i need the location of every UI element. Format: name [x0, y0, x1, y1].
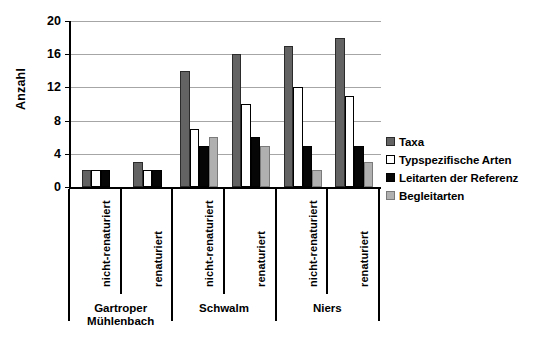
category-separator	[120, 189, 122, 294]
legend-label: Typspezifische Arten	[399, 154, 511, 166]
y-axis-tick	[65, 21, 71, 22]
legend-swatch-icon	[386, 191, 395, 200]
bar	[354, 146, 364, 188]
category-label: nicht-renaturiert	[307, 200, 319, 287]
group-axis-band: GartroperMühlenbachSchwalmNiers	[69, 294, 379, 344]
category-separator	[68, 189, 70, 294]
bar	[364, 162, 374, 187]
legend-swatch-icon	[386, 155, 395, 164]
y-axis-tick	[65, 187, 71, 188]
group-label: Schwalm	[172, 302, 275, 315]
bar	[209, 137, 219, 187]
y-axis-title: Anzahl	[14, 49, 28, 129]
chart-legend: TaxaTypspezifische ArtenLeitarten der Re…	[386, 133, 534, 205]
category-label: renaturiert	[152, 231, 164, 287]
bar	[312, 170, 322, 187]
category-label: nicht-renaturiert	[100, 200, 112, 287]
y-tick-label: 12	[31, 81, 61, 93]
category-label: renaturiert	[255, 231, 267, 287]
bar	[152, 170, 162, 187]
bar	[303, 146, 313, 188]
legend-item[interactable]: Taxa	[386, 133, 534, 150]
legend-swatch-icon	[386, 173, 395, 182]
y-axis-tick	[65, 121, 71, 122]
legend-label: Leitarten der Referenz	[399, 172, 518, 184]
bar	[133, 162, 143, 187]
gridline	[71, 21, 381, 22]
group-label: GartroperMühlenbach	[69, 302, 172, 328]
category-separator	[171, 189, 173, 294]
legend-swatch-icon	[386, 137, 395, 146]
category-separator	[275, 189, 277, 294]
y-axis-tick	[65, 54, 71, 55]
bar	[335, 38, 345, 187]
y-axis-tick	[65, 87, 71, 88]
y-tick-label: 16	[31, 48, 61, 60]
legend-label: Taxa	[399, 136, 424, 148]
bar	[284, 46, 294, 187]
category-label: nicht-renaturiert	[203, 200, 215, 287]
category-axis-band: nicht-renaturiertrenaturiertnicht-renatu…	[69, 189, 379, 294]
bar	[251, 137, 261, 187]
y-tick-label: 8	[31, 115, 61, 127]
bar	[293, 87, 303, 187]
category-label: renaturiert	[358, 231, 370, 287]
bar	[180, 71, 190, 187]
y-tick-label: 0	[31, 181, 61, 193]
group-label: Niers	[276, 302, 379, 315]
y-tick-label: 4	[31, 148, 61, 160]
bar	[232, 54, 242, 187]
legend-item[interactable]: Leitarten der Referenz	[386, 169, 534, 186]
y-axis-tick	[65, 154, 71, 155]
plot-area	[69, 21, 381, 189]
bar	[143, 170, 153, 187]
bar	[82, 170, 92, 187]
category-separator	[223, 189, 225, 294]
bar	[91, 170, 101, 187]
category-separator	[378, 189, 380, 294]
y-tick-label: 20	[31, 15, 61, 27]
bar-chart: Anzahl 048121620 nicht-renaturiertrenatu…	[0, 0, 535, 350]
bar	[190, 129, 200, 187]
bar	[345, 96, 355, 187]
legend-label: Begleitarten	[399, 190, 464, 202]
legend-item[interactable]: Typspezifische Arten	[386, 151, 534, 168]
bar	[260, 146, 270, 188]
bar	[241, 104, 251, 187]
bar	[101, 170, 111, 187]
category-separator	[326, 189, 328, 294]
legend-item[interactable]: Begleitarten	[386, 187, 534, 204]
bar	[199, 146, 209, 188]
